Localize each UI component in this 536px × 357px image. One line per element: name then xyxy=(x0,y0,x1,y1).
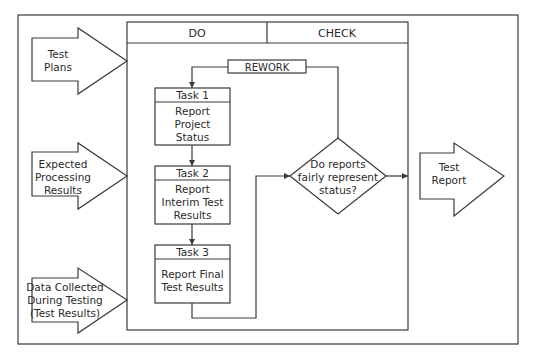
task-3-title: Task 3 xyxy=(175,246,209,258)
svg-text:Plans: Plans xyxy=(44,61,72,73)
task-3-box: Task 3 Report Final Test Results xyxy=(155,245,230,303)
svg-text:Interim Test: Interim Test xyxy=(162,196,224,208)
svg-text:Expected: Expected xyxy=(39,158,88,170)
svg-text:During Testing: During Testing xyxy=(27,294,103,306)
input-arrow-expected-results: Expected Processing Results xyxy=(32,143,127,209)
svg-text:Report: Report xyxy=(175,183,210,195)
svg-text:Report Final: Report Final xyxy=(161,268,223,280)
output-arrow-test-report: Test Report xyxy=(420,143,504,216)
rework-return-line xyxy=(306,67,338,138)
column-header-do: DO xyxy=(188,27,205,40)
column-header-check: CHECK xyxy=(318,27,357,40)
svg-text:REWORK: REWORK xyxy=(245,62,290,73)
svg-text:Data Collected: Data Collected xyxy=(26,281,103,293)
svg-text:Test: Test xyxy=(438,161,460,173)
decision-diamond: Do reports fairly represent status? xyxy=(290,138,386,214)
svg-text:Test: Test xyxy=(47,48,69,60)
svg-text:Results: Results xyxy=(44,184,82,196)
input-arrow-test-plans: Test Plans xyxy=(32,28,127,94)
svg-text:Results: Results xyxy=(174,209,212,221)
task-2-title: Task 2 xyxy=(175,167,209,179)
svg-text:Processing: Processing xyxy=(35,171,91,183)
svg-text:status?: status? xyxy=(319,184,357,196)
svg-text:fairly represent: fairly represent xyxy=(298,171,378,183)
input-arrow-data-collected: Data Collected During Testing (Test Resu… xyxy=(26,268,127,333)
svg-text:Do reports: Do reports xyxy=(310,158,365,170)
svg-text:(Test Results): (Test Results) xyxy=(30,307,100,319)
task-1-title: Task 1 xyxy=(175,89,209,101)
rework-to-task1-arrow xyxy=(192,67,228,88)
svg-text:Project: Project xyxy=(175,118,211,130)
task-2-box: Task 2 Report Interim Test Results xyxy=(155,166,230,224)
task-1-box: Task 1 Report Project Status xyxy=(155,88,230,145)
svg-text:Status: Status xyxy=(176,131,209,143)
svg-text:Test Results: Test Results xyxy=(161,281,224,293)
svg-text:Report: Report xyxy=(175,105,210,117)
svg-text:Report: Report xyxy=(432,174,467,186)
workflow-diagram: DO CHECK Test Plans Expected Processing … xyxy=(0,0,536,357)
rework-label-box: REWORK xyxy=(228,60,306,73)
